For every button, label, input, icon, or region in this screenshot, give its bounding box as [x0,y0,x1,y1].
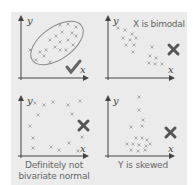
panel-top-right: y x X is bimodal [105,15,185,80]
svg-text:y: y [26,95,33,106]
svg-text:y: y [26,15,33,26]
svg-text:x: x [80,64,86,75]
svg-text:y: y [112,15,119,26]
panel-top-left: y x [18,13,91,80]
cross-icon [166,128,175,137]
svg-text:x: x [80,143,86,154]
svg-text:x: x [168,143,174,154]
panel-bottom-right: y x [105,95,175,158]
caption-bottom-right: Y is skewed [108,160,178,171]
caption-bottom-left: Definitely not bivariate normal [14,160,94,182]
cross-icon [79,121,88,130]
caption-line-1: Definitely not [14,160,94,171]
cross-icon [169,45,178,54]
panel-bottom-left: y x [18,95,88,158]
caption-line-2: bivariate normal [14,171,94,182]
svg-text:y: y [112,95,119,106]
svg-text:X is bimodal: X is bimodal [133,19,185,29]
check-icon [67,61,80,72]
svg-text:x: x [168,64,174,75]
scatter-diagrams: y x y x X is bimodal y x [0,0,193,185]
